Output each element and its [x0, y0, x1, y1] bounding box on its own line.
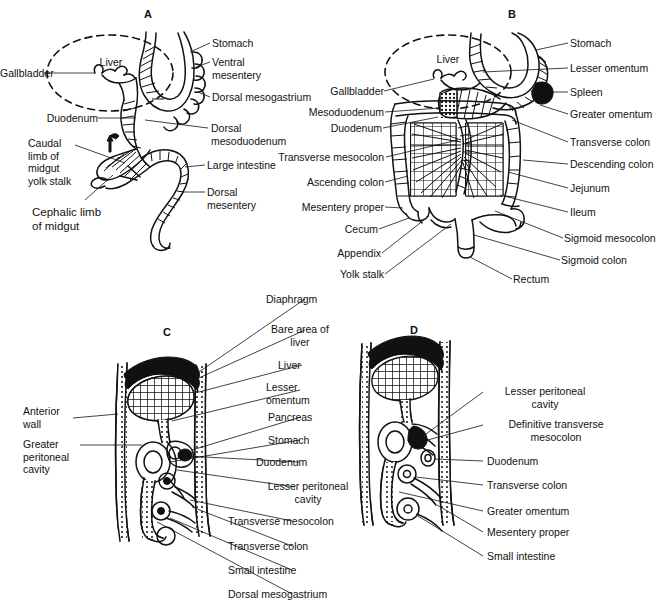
- label-a-ventral-mesentery: Ventral mesentery: [212, 56, 261, 81]
- label-b-ileum: Ileum: [570, 206, 596, 219]
- panel-letter-c: C: [163, 326, 171, 338]
- label-a-dorsal-mesogastrium: Dorsal mesogastrium: [212, 91, 311, 104]
- label-c-duodenum: Duodenum: [256, 456, 307, 469]
- label-a-cephalic-limb: Cephalic limb of midgut: [32, 205, 101, 233]
- label-c-lesser-omentum: Lesser omentum: [266, 381, 310, 406]
- label-c-lesser-peritoneal-cavity: Lesser peritoneal cavity: [248, 480, 368, 505]
- label-b-transverse-mesocolon: Transverse mesocolon: [278, 151, 384, 164]
- label-b-yolk-stalk: Yolk stalk: [322, 268, 384, 281]
- label-a-dorsal-mesoduodenum: Dorsal mesoduodenum: [211, 122, 286, 147]
- label-c-liver: Liver: [278, 359, 301, 372]
- label-a-duodenum: Duodenum: [26, 112, 98, 125]
- label-c-pancreas: Pancreas: [268, 411, 312, 424]
- label-a-gallbladder: Gallbladder: [0, 67, 44, 80]
- panel-letter-d: D: [410, 324, 418, 336]
- label-b-transverse-colon: Transverse colon: [570, 136, 650, 149]
- label-c-greater-peritoneal-cavity: Greater peritoneal cavity: [23, 438, 69, 476]
- label-d-transverse-colon: Transverse colon: [487, 479, 567, 492]
- label-b-gallbladder: Gallbladder: [318, 85, 384, 98]
- label-b-lesser-omentum: Lesser omentum: [570, 62, 648, 75]
- label-a-liver: Liver: [88, 56, 134, 69]
- panel-letter-b: B: [508, 8, 516, 20]
- label-b-appendix: Appendix: [325, 247, 381, 260]
- label-d-lesser-peritoneal-cavity: Lesser peritoneal cavity: [485, 385, 605, 410]
- label-b-spleen: Spleen: [570, 86, 603, 99]
- label-b-cecum: Cecum: [330, 223, 378, 236]
- label-d-mesentery-proper: Mesentery proper: [487, 526, 569, 539]
- label-d-definitive-transverse-mesocolon: Definitive transverse mesocolon: [485, 418, 627, 443]
- label-c-small-intestine: Small intestine: [228, 564, 296, 577]
- panel-b-artwork: [379, 33, 568, 279]
- label-a-caudal-limb: Caudal limb of midgut yolk stalk: [28, 137, 71, 187]
- label-b-descending-colon: Descending colon: [570, 158, 653, 171]
- label-d-duodenum: Duodenum: [487, 455, 538, 468]
- label-c-transverse-colon: Transverse colon: [228, 540, 308, 553]
- gut-rotation-figure: A B C D Stomach Ventral mesentery Dorsal…: [0, 0, 661, 612]
- label-d-small-intestine: Small intestine: [487, 550, 555, 563]
- label-a-dorsal-mesentery: Dorsal mesentery: [207, 186, 256, 211]
- label-a-large-intestine: Large intestine: [207, 159, 276, 172]
- label-c-diaphragm: Diaphragm: [266, 293, 317, 306]
- label-c-bare-area: Bare area of liver: [262, 323, 338, 348]
- label-b-sigmoid-colon: Sigmoid colon: [561, 254, 627, 267]
- label-b-duodenum: Duodenum: [314, 122, 382, 135]
- label-a-stomach: Stomach: [212, 37, 253, 50]
- label-c-anterior-wall: Anterior wall: [23, 405, 60, 430]
- label-b-stomach: Stomach: [570, 37, 611, 50]
- label-b-greater-omentum: Greater omentum: [570, 108, 652, 121]
- label-b-liver: Liver: [425, 53, 471, 66]
- label-c-dorsal-mesogastrium: Dorsal mesogastrium: [228, 588, 327, 601]
- label-d-greater-omentum: Greater omentum: [487, 505, 569, 518]
- label-b-mesentery-proper: Mesentery proper: [293, 201, 384, 214]
- label-c-stomach: Stomach: [268, 434, 309, 447]
- label-b-rectum: Rectum: [513, 273, 549, 286]
- label-b-mesoduodenum: Mesoduodenum: [298, 106, 384, 119]
- label-b-sigmoid-mesocolon: Sigmoid mesocolon: [564, 232, 656, 245]
- panel-d-artwork: [360, 336, 483, 556]
- label-b-jejunum: Jejunum: [570, 182, 610, 195]
- panel-letter-a: A: [144, 8, 152, 20]
- label-b-ascending-colon: Ascending colon: [298, 176, 384, 189]
- label-c-transverse-mesocolon: Transverse mesocolon: [228, 515, 334, 528]
